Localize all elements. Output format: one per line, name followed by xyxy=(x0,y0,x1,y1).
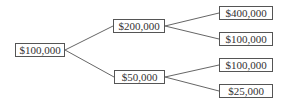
up-node: $200,000 xyxy=(113,19,165,33)
edge-down-to-du xyxy=(165,65,219,77)
down-up-node: $100,000 xyxy=(219,58,273,72)
edge-down-to-dd xyxy=(165,77,219,91)
up-down-node: $100,000 xyxy=(219,32,273,46)
up-up-node: $400,000 xyxy=(219,6,273,20)
edge-root-to-up xyxy=(65,26,113,50)
root-node: $100,000 xyxy=(15,43,65,57)
down-node: $50,000 xyxy=(114,70,165,84)
down-down-node: $25,000 xyxy=(219,84,273,98)
edge-up-to-uu xyxy=(165,13,219,26)
edge-up-to-ud xyxy=(165,26,219,39)
edge-root-to-down xyxy=(65,50,114,77)
